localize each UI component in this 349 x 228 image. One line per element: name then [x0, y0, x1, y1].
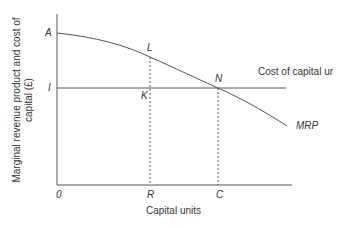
point-I-label: I: [48, 83, 51, 93]
cost-of-capital-label: Cost of capital ur: [258, 67, 333, 77]
diagram-canvas: [0, 0, 349, 228]
point-L-label: L: [147, 43, 153, 53]
x-axis-label: Capital units: [146, 206, 201, 216]
point-R-label: R: [147, 190, 154, 200]
point-K-label: K: [141, 91, 148, 101]
mrp-curve: [57, 33, 287, 126]
point-C-label: C: [216, 190, 223, 200]
point-A-label: A: [45, 28, 52, 38]
origin-label: 0: [56, 190, 62, 200]
y-axis-label: Marginal revenue product and cost of cap…: [11, 15, 35, 185]
mrp-label: MRP: [296, 121, 318, 131]
point-N-label: N: [215, 74, 222, 84]
